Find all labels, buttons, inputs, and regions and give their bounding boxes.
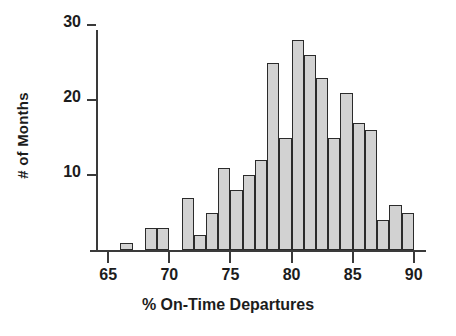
x-tick-label-75: 75 (222, 266, 240, 284)
histogram-bar (316, 78, 328, 250)
histogram-bar (279, 138, 291, 250)
x-tick-65 (107, 252, 109, 263)
x-axis-label: % On-Time Departures (0, 296, 456, 314)
histogram-bar (402, 213, 414, 250)
histogram-bar (328, 138, 340, 250)
histogram-bars (96, 18, 426, 250)
x-tick-label-80: 80 (283, 266, 301, 284)
histogram-bar (230, 190, 242, 250)
y-tick-20: 20 (87, 99, 96, 101)
x-tick-75 (229, 252, 231, 263)
x-tick-label-90: 90 (405, 266, 423, 284)
y-axis-label-text: # of Months (14, 92, 31, 178)
histogram-bar (243, 175, 255, 250)
histogram-bar (206, 213, 218, 250)
x-tick-label-85: 85 (344, 266, 362, 284)
histogram-bar (255, 160, 267, 250)
y-tick-label-30: 30 (63, 13, 81, 31)
histogram-bar (389, 205, 401, 250)
histogram-bar (182, 198, 194, 250)
x-tick-label-70: 70 (160, 266, 178, 284)
y-axis-label: # of Months (0, 0, 44, 270)
x-tick-label-65: 65 (99, 266, 117, 284)
histogram-bar (194, 235, 206, 250)
histogram-bar (365, 130, 377, 250)
histogram-bar (377, 220, 389, 250)
plot-area: 102030 657075808590 (96, 18, 426, 250)
histogram-bar (353, 123, 365, 250)
x-axis-line (90, 250, 426, 252)
histogram-bar (145, 228, 157, 250)
histogram-bar (304, 55, 316, 250)
histogram-bar (292, 40, 304, 250)
histogram-bar (267, 63, 279, 250)
y-tick-30: 30 (87, 24, 96, 26)
y-tick-label-10: 10 (63, 163, 81, 181)
histogram-bar (340, 93, 352, 250)
x-tick-90 (413, 252, 415, 263)
x-tick-70 (168, 252, 170, 263)
x-tick-85 (352, 252, 354, 263)
histogram-bar (157, 228, 169, 250)
histogram-bar (120, 243, 132, 250)
y-tick-label-20: 20 (63, 88, 81, 106)
x-tick-80 (291, 252, 293, 263)
y-tick-10: 10 (87, 174, 96, 176)
histogram-bar (218, 168, 230, 250)
histogram-figure: # of Months 102030 657075808590 % On-Tim… (0, 0, 456, 336)
